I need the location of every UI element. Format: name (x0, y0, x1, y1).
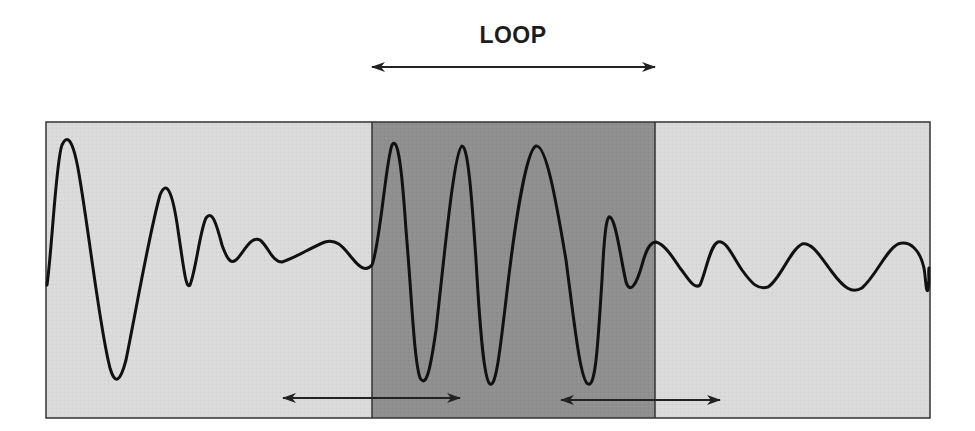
post-loop-region (655, 122, 930, 418)
loop-region (372, 122, 655, 418)
pre-loop-region (46, 122, 372, 418)
waveform-diagram (0, 0, 975, 431)
